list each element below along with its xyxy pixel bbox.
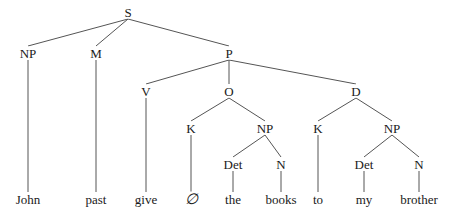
leaf-w5: the	[224, 193, 242, 206]
node-o: O	[223, 85, 234, 98]
tree-edges	[0, 0, 453, 222]
node-m: M	[89, 47, 103, 60]
leaf-w2: past	[85, 193, 108, 206]
tree-edge-np2-n1	[265, 135, 281, 157]
node-np2: NP	[256, 122, 275, 135]
node-np1: NP	[19, 47, 38, 60]
node-k2: K	[312, 122, 323, 135]
node-n1: N	[275, 158, 286, 171]
tree-edge-p-v	[146, 60, 229, 84]
tree-edge-o-k1	[191, 98, 229, 121]
tree-edge-s-np1	[28, 19, 128, 46]
leaf-w8: my	[355, 193, 374, 206]
tree-edge-np3-n2	[392, 135, 419, 157]
node-v: V	[140, 85, 151, 98]
node-s: S	[123, 6, 132, 19]
leaf-w7: to	[312, 193, 324, 206]
node-k1: K	[185, 122, 196, 135]
tree-edge-o-np2	[229, 98, 265, 121]
node-np3: NP	[383, 122, 402, 135]
tree-edge-d-k2	[318, 98, 356, 121]
tree-edge-np2-det1	[233, 135, 265, 157]
tree-edge-np3-det2	[364, 135, 392, 157]
leaf-w3: give	[134, 193, 158, 206]
node-n2: N	[413, 158, 424, 171]
leaf-w4: ∅	[184, 192, 199, 207]
leaf-w1: John	[15, 193, 42, 206]
node-d: D	[350, 85, 361, 98]
tree-edge-d-np3	[356, 98, 392, 121]
tree-edge-p-d	[229, 60, 356, 84]
node-det1: Det	[223, 158, 244, 171]
tree-edge-s-p	[128, 19, 229, 46]
leaf-w6: books	[264, 193, 297, 206]
node-p: P	[224, 47, 233, 60]
leaf-w9: brother	[399, 193, 439, 206]
node-det2: Det	[354, 158, 375, 171]
